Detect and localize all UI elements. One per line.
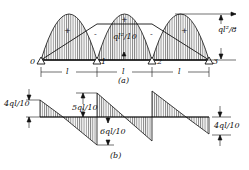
shear-support1-right-label: 5ql/10 [72,104,98,112]
span3-parabola [152,14,209,60]
sign-span2: + [121,16,128,24]
span-2-length: l [122,68,125,76]
shear-span1-neg [63,117,97,145]
caption-b: (b) [110,152,121,160]
shear-span2-pos [97,93,125,117]
support-moment-label: ql²/10 [113,33,137,41]
diagram-graphics [0,0,249,170]
shear-support1-left-label: 6ql/10 [100,128,126,136]
support-1-label: 1 [101,58,106,66]
span1-parabola [41,14,97,60]
support-0-label: 0 [30,58,35,66]
sign-span1: + [64,27,71,35]
shear-span3-neg [186,117,209,134]
shear-right-end-label: 4ql/10 [214,122,240,130]
shear-span3-pos [152,91,186,117]
sign-span3: + [181,27,188,35]
shear-span2-neg [125,117,153,141]
caption-a: (a) [118,77,129,85]
midspan-moment-label: ql²/8 [218,26,237,34]
sign-support1: - [94,31,97,39]
beam-diagram-figure: + - + - + ql²/8 ql²/10 0 1 2 3 l l l (a)… [0,0,249,170]
span-1-length: l [66,68,69,76]
left-end-dimension [26,89,40,128]
sign-support2: - [150,31,153,39]
support-2-label: 2 [157,58,162,66]
support-3-label: 3 [213,58,218,66]
shear-left-end-label: 4ql/10 [4,100,30,108]
shear-span1-pos [40,100,63,117]
span-3-length: l [178,68,181,76]
shear-diagram [26,89,231,146]
